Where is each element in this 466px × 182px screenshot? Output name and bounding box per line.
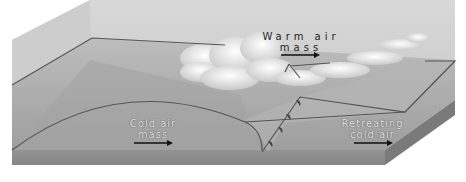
ground-front-face (12, 150, 385, 165)
diagram-canvas (0, 0, 466, 182)
cold-air-mass-label: Cold air mass (118, 118, 188, 140)
retreating-line1: Retreating (335, 118, 410, 129)
warm-air-line2: mass (256, 42, 346, 53)
cold-air-line1: Cold air (118, 118, 188, 129)
retreating-line2: cold air (335, 129, 410, 140)
cold-air-line2: mass (118, 129, 188, 140)
retreating-cold-air-label: Retreating cold air (335, 118, 410, 140)
warm-air-mass-label: Warm air mass (256, 31, 346, 53)
warm-air-line1: Warm air (256, 31, 346, 42)
warm-front-diagram: Warm air mass Cold air mass Retreating c… (0, 0, 466, 182)
